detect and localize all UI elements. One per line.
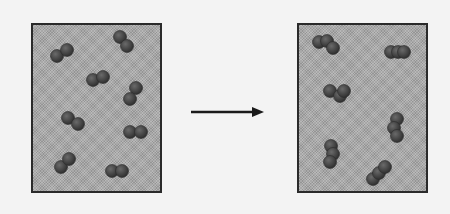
atom-icon: [135, 126, 148, 139]
atom-icon: [324, 156, 337, 169]
atom-icon: [398, 46, 411, 59]
diatomic-molecule: [51, 44, 74, 63]
atom-icon: [379, 161, 392, 174]
product-molecules: [313, 35, 411, 186]
atom-icon: [121, 40, 134, 53]
atom-icon: [124, 93, 137, 106]
diatomic-molecule: [114, 31, 134, 53]
atom-icon: [338, 85, 351, 98]
triatomic-molecule: [388, 113, 404, 143]
diatomic-molecule: [124, 126, 148, 139]
triatomic-molecule: [367, 161, 392, 186]
atom-icon: [63, 153, 76, 166]
reactant-molecules: [51, 31, 148, 178]
molecules-layer: [0, 0, 450, 214]
atom-icon: [97, 71, 110, 84]
atom-icon: [391, 130, 404, 143]
diatomic-molecule: [124, 82, 143, 106]
triatomic-molecule: [324, 140, 340, 169]
triatomic-molecule: [385, 46, 411, 59]
diatomic-molecule: [62, 112, 85, 131]
diatomic-molecule: [55, 153, 76, 174]
triatomic-molecule: [324, 85, 351, 103]
reaction-arrow-icon: [191, 107, 264, 117]
diatomic-molecule: [106, 165, 129, 178]
triatomic-molecule: [313, 35, 340, 55]
atom-icon: [61, 44, 74, 57]
atom-icon: [327, 42, 340, 55]
atom-icon: [116, 165, 129, 178]
diatomic-molecule: [87, 71, 110, 87]
atom-icon: [72, 118, 85, 131]
